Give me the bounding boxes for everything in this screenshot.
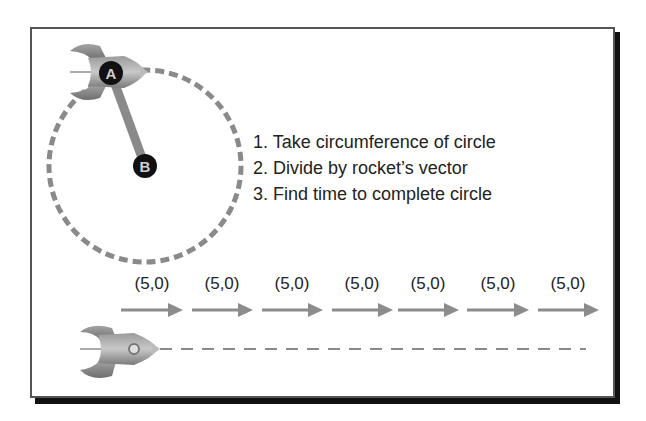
vector-label: (5,0) — [533, 274, 603, 294]
point-b-label: B — [140, 158, 151, 175]
vector-arrows — [121, 303, 599, 317]
step-item: 1. Take circumference of circle — [253, 129, 496, 155]
diagram-art: A B — [0, 0, 646, 421]
vector-arrow — [467, 303, 529, 317]
point-a-label: A — [106, 65, 117, 82]
vector-label: (5,0) — [187, 274, 257, 294]
step-item: 3. Find time to complete circle — [253, 181, 496, 207]
vector-arrow — [121, 303, 183, 317]
vector-arrow — [332, 303, 393, 317]
vector-label: (5,0) — [117, 274, 187, 294]
rocket-bottom-icon — [80, 326, 160, 378]
vector-label: (5,0) — [463, 274, 533, 294]
vector-arrow — [262, 303, 323, 317]
vector-label: (5,0) — [257, 274, 327, 294]
vector-arrow — [538, 303, 599, 317]
vector-label: (5,0) — [393, 274, 463, 294]
vector-arrow — [192, 303, 253, 317]
vector-label: (5,0) — [327, 274, 397, 294]
steps-list: 1. Take circumference of circle 2. Divid… — [253, 129, 496, 207]
step-item: 2. Divide by rocket’s vector — [253, 155, 496, 181]
vector-arrow — [398, 303, 459, 317]
